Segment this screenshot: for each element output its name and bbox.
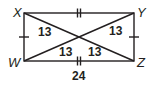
vertex-label-w: W [8, 56, 20, 69]
vertex-label-y: Y [137, 6, 146, 19]
segment-label-upper-right: 13 [109, 25, 122, 37]
bottom-length-label: 24 [72, 70, 85, 82]
vertex-label-z: Z [137, 56, 145, 69]
segment-label-lower-left: 13 [59, 46, 72, 58]
segment-label-lower-right: 13 [88, 46, 101, 58]
vertex-label-x: X [13, 6, 22, 19]
segment-label-upper-left: 13 [38, 26, 51, 38]
